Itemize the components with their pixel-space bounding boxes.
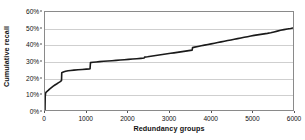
x-tick-label-0: 0 [42,115,46,122]
x-tick-label-2000: 2000 [120,115,134,122]
y-tick-label-0: 0% [30,108,39,115]
x-tick-label-3000: 3000 [162,115,176,122]
series-path-cumulative-recall [45,28,293,110]
y-tick-mark-0 [40,111,42,112]
x-tick-label-4000: 4000 [204,115,218,122]
series-line-cumulative-recall [45,12,293,110]
x-axis-title: Redundancy groups [44,124,294,133]
y-tick-label-20: 20% [26,74,39,81]
y-tick-mark-60 [40,11,42,12]
y-tick-mark-10 [40,94,42,95]
plot-area [44,11,294,111]
y-tick-mark-50 [40,27,42,28]
x-axis-tick-labels: 0100020003000400050006000 [44,111,294,125]
y-tick-mark-40 [40,44,42,45]
x-tick-mark-0 [44,111,45,113]
y-tick-label-40: 40% [26,41,39,48]
y-tick-label-30: 30% [26,58,39,65]
y-tick-label-50: 50% [26,24,39,31]
y-axis-title: Cumulative recall [0,0,14,112]
cumulative-recall-chart: Cumulative recall 0%10%20%30%40%50%60% 0… [0,0,305,140]
y-axis-tick-labels: 0%10%20%30%40%50%60% [14,7,42,111]
y-tick-mark-20 [40,77,42,78]
y-tick-label-60: 60% [26,8,39,15]
y-axis-title-text: Cumulative recall [3,25,12,86]
x-tick-mark-2000 [127,111,128,113]
x-tick-mark-6000 [294,111,295,113]
x-tick-label-1000: 1000 [79,115,93,122]
x-tick-mark-3000 [169,111,170,113]
x-tick-mark-5000 [252,111,253,113]
x-tick-label-6000: 6000 [287,115,301,122]
y-tick-mark-30 [40,61,42,62]
x-tick-mark-4000 [211,111,212,113]
x-tick-label-5000: 5000 [245,115,259,122]
x-tick-mark-1000 [86,111,87,113]
y-tick-label-10: 10% [26,91,39,98]
